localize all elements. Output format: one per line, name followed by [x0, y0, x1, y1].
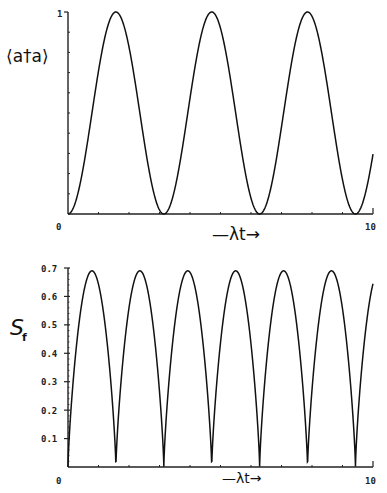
bottom-x-label: —λt→	[222, 470, 262, 486]
top-x-tick-10: 10	[365, 222, 376, 232]
bottom-x-tick-10: 10	[365, 476, 376, 486]
figure: 1 0 10 —λt→ ⟨a†a⟩ 0.70.60.50.40.30.20.1 …	[0, 0, 387, 493]
bottom-y-tick: 0.3	[41, 377, 57, 387]
top-plot: 1 0 10 —λt→ ⟨a†a⟩	[6, 9, 376, 244]
bottom-y-tick: 0.4	[41, 349, 58, 359]
bottom-y-tick: 0.6	[41, 292, 57, 302]
bottom-y-tick: 0.2	[41, 406, 57, 416]
bottom-x-tick-0: 0	[56, 476, 61, 486]
top-x-label: —λt→	[212, 224, 260, 244]
entropy-curve	[68, 271, 373, 467]
top-x-tick-0: 0	[56, 222, 61, 232]
bottom-y-tick: 0.7	[41, 264, 57, 274]
bottom-y-label-sub: f	[22, 331, 27, 344]
bottom-y-tick: 0.1	[41, 434, 57, 444]
bottom-y-tick: 0.5	[41, 320, 57, 330]
bottom-plot: 0.70.60.50.40.30.20.1 0 10 —λt→ S f	[10, 264, 376, 487]
top-y-label: ⟨a†a⟩	[6, 46, 49, 66]
top-y-tick-1: 1	[57, 9, 62, 19]
occupation-curve	[68, 12, 373, 214]
